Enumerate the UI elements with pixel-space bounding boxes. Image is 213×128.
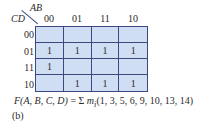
column-header: 10 (119, 13, 147, 24)
row-header: 00 (14, 29, 34, 40)
kmap-cell (119, 27, 147, 43)
kmap-cell: 1 (64, 75, 92, 91)
kmap-cell: 1 (36, 43, 64, 59)
row-header: 11 (14, 62, 34, 73)
equals-sign: = (68, 95, 79, 106)
column-variable-label: AB (30, 2, 42, 13)
kmap-cell: 1 (92, 75, 120, 91)
minterm-symbol: m (87, 95, 94, 106)
kmap-cell (92, 59, 120, 75)
row-variable-label: CD (11, 13, 25, 24)
figure-caption: (b) (12, 110, 24, 121)
kmap-cell (64, 27, 92, 43)
kmap-cell: 1 (119, 43, 147, 59)
boolean-function-formula: F(A, B, C, D) = Σ mi(1, 3, 5, 6, 9, 10, … (14, 95, 193, 109)
column-header: 01 (63, 13, 91, 24)
kmap-cell: 1 (119, 75, 147, 91)
kmap-cell: 1 (36, 59, 64, 75)
sigma-symbol: Σ (79, 95, 85, 106)
function-lhs: F(A, B, C, D) (14, 95, 68, 106)
kmap-grid: 1 1 1 1 1 1 1 1 (35, 26, 148, 92)
kmap-cell (119, 59, 147, 75)
kmap-cell: 1 (64, 43, 92, 59)
row-header: 01 (14, 46, 34, 57)
kmap-cell (36, 75, 64, 91)
kmap-cell (36, 27, 64, 43)
kmap-cell: 1 (92, 43, 120, 59)
kmap-cell (64, 59, 92, 75)
column-header: 11 (91, 13, 119, 24)
kmap-cell (92, 27, 120, 43)
column-header: 00 (35, 13, 63, 24)
minterm-list: (1, 3, 5, 6, 9, 10, 13, 14) (96, 95, 193, 106)
row-header: 10 (14, 79, 34, 90)
